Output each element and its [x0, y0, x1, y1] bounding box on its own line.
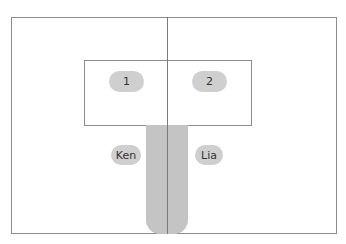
inner-boundary: [84, 60, 252, 126]
label-2-text: 2: [206, 75, 213, 88]
label-pill-1: 1: [109, 71, 144, 92]
label-pill-ken: Ken: [111, 145, 141, 165]
label-1-text: 1: [123, 75, 130, 88]
label-pill-lia: Lia: [195, 145, 223, 165]
label-ken-text: Ken: [116, 149, 136, 162]
center-divider-line: [167, 17, 168, 234]
label-pill-2: 2: [192, 71, 227, 92]
label-lia-text: Lia: [201, 149, 217, 162]
